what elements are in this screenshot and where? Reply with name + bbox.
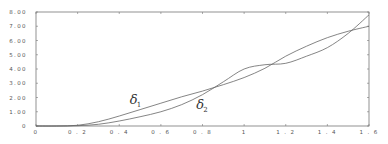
curve-label-subscript: 2 [203, 106, 207, 114]
x-tick-label: 1 [242, 129, 247, 135]
y-tick-label: 5.00 [9, 52, 27, 58]
x-tick-label: 1 . 2 [276, 129, 295, 135]
curve-labels: δ1δ2 [130, 92, 208, 114]
x-tick-label: 0 [34, 129, 39, 135]
y-tick-label: 2.00 [9, 95, 27, 101]
y-axis-ticks: 01.002.003.004.005.006.007.008.00 [9, 9, 369, 129]
x-tick-label: 0 . 6 [151, 129, 170, 135]
x-tick-label: 1 . 4 [318, 129, 337, 135]
x-tick-label: 0 . 4 [110, 129, 129, 135]
y-tick-label: 4.00 [9, 66, 27, 72]
y-tick-label: 1.00 [9, 109, 27, 115]
curve-label-subscript: 1 [137, 101, 141, 109]
x-tick-label: 1 . 6 [359, 129, 378, 135]
y-tick-label: 8.00 [9, 9, 27, 15]
line-chart: 00 . 20 . 40 . 60 . 811 . 21 . 41 . 6 01… [0, 0, 388, 144]
y-tick-label: 7.00 [9, 23, 27, 29]
x-tick-label: 0 . 2 [68, 129, 87, 135]
y-tick-label: 6.00 [9, 38, 27, 44]
x-axis-ticks: 00 . 20 . 40 . 60 . 811 . 21 . 41 . 6 [34, 12, 379, 135]
y-tick-label: 3.00 [9, 80, 27, 86]
y-tick-label: 0 [22, 123, 27, 129]
x-tick-label: 0 . 8 [193, 129, 212, 135]
